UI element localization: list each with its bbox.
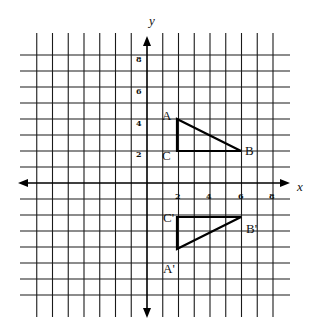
x-axis-right-arrow-icon bbox=[280, 179, 290, 187]
x-tick-label: 6 bbox=[238, 191, 244, 201]
vertex-label-a: A bbox=[162, 108, 172, 123]
y-axis-label: y bbox=[147, 13, 155, 28]
x-tick-label: 2 bbox=[175, 191, 181, 201]
grid-lines bbox=[20, 33, 290, 317]
y-tick-label: 6 bbox=[136, 86, 142, 96]
x-axis-left-arrow-icon bbox=[18, 179, 28, 187]
vertex-label-b: B bbox=[245, 143, 254, 158]
x-axis-label: x bbox=[296, 179, 303, 194]
vertex-label-c: C bbox=[162, 148, 171, 163]
y-tick-label: 4 bbox=[136, 118, 142, 128]
vertex-label-c-prime: C' bbox=[163, 210, 174, 225]
coordinate-plane: x y 8 6 4 2 2 4 6 8 A B C A' B' C' bbox=[0, 0, 322, 334]
axes bbox=[18, 36, 290, 318]
x-tick-label: 4 bbox=[206, 191, 212, 201]
x-tick-label: 8 bbox=[269, 191, 275, 201]
y-tick-label: 8 bbox=[136, 54, 142, 64]
y-axis-down-arrow-icon bbox=[143, 308, 151, 318]
y-axis-up-arrow-icon bbox=[143, 36, 151, 46]
vertex-label-a-prime: A' bbox=[163, 261, 175, 276]
vertex-label-b-prime: B' bbox=[246, 221, 257, 236]
y-tick-label: 2 bbox=[136, 149, 142, 159]
triangle-a-prime-b-prime-c-prime bbox=[177, 217, 241, 249]
